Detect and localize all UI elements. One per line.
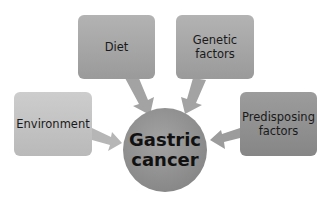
factor-label: Environment bbox=[16, 117, 89, 131]
factor-label: factors bbox=[242, 124, 315, 138]
center-node-gastric-cancer: Gastric cancer bbox=[123, 108, 207, 192]
arrow-predisposing bbox=[210, 128, 240, 149]
arrow-diet bbox=[125, 76, 154, 115]
arrow-genetic bbox=[181, 78, 206, 114]
factor-box-diet: Diet bbox=[78, 15, 155, 79]
factor-label: Genetic bbox=[193, 33, 237, 47]
factor-label: Diet bbox=[105, 40, 129, 54]
factor-label: Predisposing bbox=[242, 110, 315, 124]
center-label: Gastric bbox=[129, 130, 201, 150]
factor-box-environment: Environment bbox=[14, 92, 92, 156]
arrow-environment bbox=[92, 128, 122, 151]
factor-box-predisposing: Predisposing factors bbox=[240, 92, 317, 156]
factor-label: factors bbox=[193, 47, 237, 61]
factor-box-genetic: Genetic factors bbox=[176, 15, 254, 79]
center-label: cancer bbox=[129, 150, 201, 170]
